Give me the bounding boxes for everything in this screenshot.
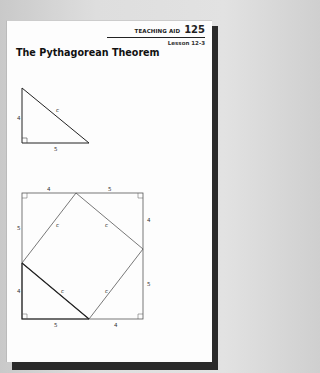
inner-side-c-label: c — [105, 222, 108, 228]
top-left-segment-label: 4 — [47, 186, 51, 192]
triangle-leg-5-label: 5 — [54, 146, 58, 152]
right-upper-segment-label: 4 — [147, 217, 151, 223]
triangle-leg-4-label: 4 — [17, 115, 21, 121]
right-angle-marker-icon — [138, 314, 143, 319]
inner-side-c-label: c — [105, 288, 108, 294]
left-upper-segment-label: 5 — [17, 225, 21, 231]
inner-side-c-label: c — [61, 288, 64, 294]
inner-square — [22, 193, 143, 319]
right-angle-marker-icon — [138, 193, 143, 198]
square-proof-figure: 4 5 5 4 4 5 5 4 c c c c — [17, 186, 151, 328]
bottom-left-segment-label: 5 — [54, 322, 58, 328]
triangle-shape — [22, 88, 89, 143]
top-right-segment-label: 5 — [108, 186, 112, 192]
right-triangle-figure: 4 c 5 — [17, 88, 89, 152]
highlighted-triangle-hypotenuse — [22, 263, 89, 319]
inner-side-c-label: c — [56, 222, 59, 228]
outer-square — [22, 193, 143, 319]
left-lower-segment-label: 4 — [17, 288, 21, 294]
right-angle-marker-icon — [22, 193, 27, 198]
bottom-right-segment-label: 4 — [114, 322, 118, 328]
right-angle-marker-icon — [22, 138, 27, 143]
geometry-figures: 4 c 5 4 5 5 4 4 5 5 4 c c c c — [0, 0, 225, 373]
right-angle-marker-icon — [22, 314, 27, 319]
right-lower-segment-label: 5 — [147, 281, 151, 287]
triangle-hypotenuse-label: c — [56, 107, 59, 113]
